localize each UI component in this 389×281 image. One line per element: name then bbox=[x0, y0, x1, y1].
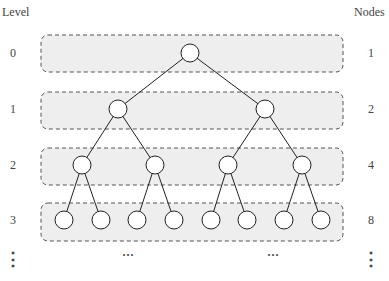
tree-node-l3 bbox=[202, 211, 220, 229]
tree-node-l2 bbox=[73, 156, 91, 174]
tree-node-l3 bbox=[128, 211, 146, 229]
tree-node-root bbox=[181, 44, 199, 62]
level-band-1 bbox=[41, 92, 343, 129]
tree-node-l1 bbox=[256, 100, 274, 118]
tree-node-l3 bbox=[165, 211, 183, 229]
tree-node-l2 bbox=[293, 156, 311, 174]
tree-node-l3 bbox=[92, 211, 110, 229]
tree-node-l3 bbox=[275, 211, 293, 229]
tree-node-l3 bbox=[55, 211, 73, 229]
tree-node-l1 bbox=[109, 100, 127, 118]
tree-node-l2 bbox=[146, 156, 164, 174]
tree-edges bbox=[64, 53, 321, 220]
tree-node-l3 bbox=[238, 211, 256, 229]
tree-node-l2 bbox=[219, 156, 237, 174]
tree-node-l3 bbox=[312, 211, 330, 229]
binary-tree-diagram bbox=[0, 0, 389, 281]
level-band-3 bbox=[41, 203, 343, 241]
